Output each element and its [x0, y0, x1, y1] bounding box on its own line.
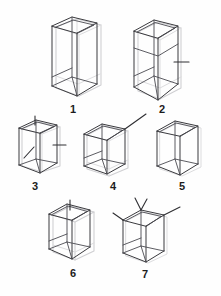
- figure-6-edges: [49, 204, 90, 259]
- figure-3: [15, 116, 73, 178]
- figure-1: [44, 14, 106, 106]
- figure-7-left-side-tick: [113, 213, 123, 220]
- figure-4-label: 4: [103, 180, 123, 192]
- figure-7-label: 7: [135, 268, 155, 280]
- figure-6-label: 6: [63, 267, 83, 279]
- figure-5: [152, 114, 212, 180]
- figure-2-edges: [134, 20, 178, 100]
- figure-7-right-diagonal-tick: [164, 207, 180, 215]
- figure-3-face-slash: [24, 147, 34, 158]
- figure-4-diagonal-antenna: [125, 114, 146, 129]
- figure-5-label: 5: [172, 180, 192, 192]
- figure-5-edges: [157, 121, 198, 175]
- figure-6-ghost: [53, 206, 94, 260]
- figure-7-v-antenna-left: [135, 198, 141, 210]
- figure-1-ghost: [56, 19, 101, 96]
- figure-4: [78, 112, 150, 180]
- figure-4-edges: [84, 124, 125, 174]
- figure-6: [42, 196, 106, 266]
- figure-7-v-antenna-right: [141, 199, 147, 210]
- figure-7: [112, 196, 182, 268]
- figure-sheet: 1 2: [0, 0, 221, 296]
- figure-3-label: 3: [25, 180, 45, 192]
- figure-1-edges: [52, 17, 97, 96]
- figure-7-edges: [123, 210, 164, 262]
- figure-2: [124, 14, 190, 106]
